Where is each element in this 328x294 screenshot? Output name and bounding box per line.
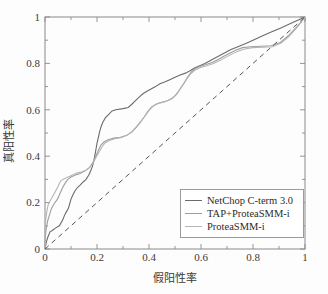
y-tick-label-4: 0.8	[14, 57, 40, 69]
legend-item-tap-proteasmm: TAP+ProteaSMM-i	[185, 207, 298, 220]
x-tick-label-3: 0.6	[194, 251, 208, 263]
y-tick-label-3: 0.6	[14, 104, 40, 116]
y-tick-label-1: 0.2	[14, 196, 40, 208]
y-axis-label: 真阳性率	[0, 111, 16, 171]
x-tick-label-5: 1	[302, 251, 308, 263]
legend-label-tap-proteasmm: TAP+ProteaSMM-i	[207, 207, 290, 220]
plot-canvas	[0, 0, 328, 294]
legend-label-proteasmm: ProteaSMM-i	[207, 220, 265, 233]
y-tick-label-0: 0	[14, 243, 40, 255]
legend-label-netchop: NetChop C-term 3.0	[207, 194, 293, 207]
chart-legend: NetChop C-term 3.0 TAP+ProteaSMM-i Prote…	[180, 189, 304, 238]
legend-item-proteasmm: ProteaSMM-i	[185, 220, 298, 233]
roc-chart-figure: 0 0.2 0.4 0.6 0.8 1 0 0.2 0.4 0.6 0.8 1 …	[0, 0, 328, 294]
legend-swatch-tap-proteasmm	[185, 213, 202, 214]
y-tick-label-2: 0.4	[14, 150, 40, 162]
legend-swatch-netchop	[185, 200, 202, 201]
x-tick-label-0: 0	[42, 251, 48, 263]
y-tick-label-5: 1	[14, 11, 40, 23]
x-tick-label-1: 0.2	[90, 251, 104, 263]
x-tick-label-4: 0.8	[246, 251, 260, 263]
legend-swatch-proteasmm	[185, 226, 202, 227]
legend-item-netchop: NetChop C-term 3.0	[185, 194, 298, 207]
x-tick-label-2: 0.4	[142, 251, 156, 263]
x-axis-label: 假阳性率	[153, 269, 197, 285]
